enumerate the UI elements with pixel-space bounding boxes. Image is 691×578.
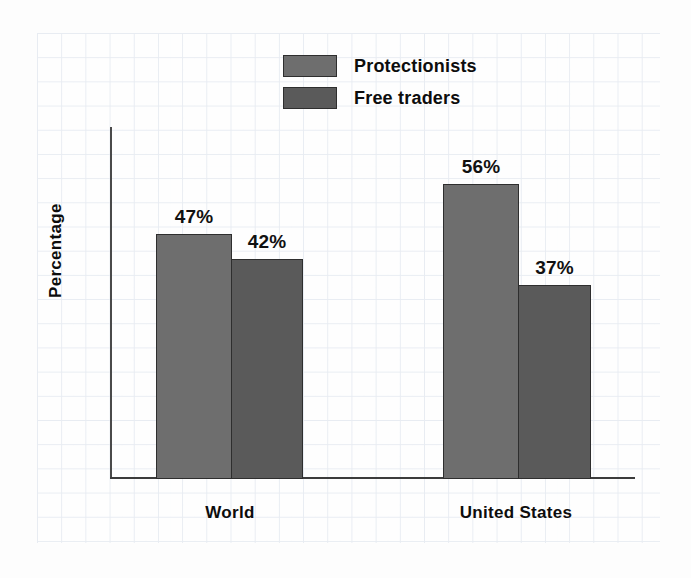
legend-swatch-free-traders [283, 87, 337, 109]
bar-label-united-states-protectionists: 56% [443, 156, 519, 178]
bar-united-states-protectionists [443, 184, 519, 479]
category-label-united-states: United States [441, 503, 591, 523]
plot-area: Percentage 47% 42% World 56% 37% United … [0, 0, 691, 578]
bar-label-world-free-traders: 42% [231, 231, 303, 253]
bar-chart: Percentage 47% 42% World 56% 37% United … [0, 0, 691, 578]
legend-label-free-traders: Free traders [354, 88, 460, 109]
legend-swatch-protectionists [283, 55, 337, 77]
legend-item-protectionists: Protectionists [283, 52, 477, 80]
bar-label-united-states-free-traders: 37% [518, 257, 591, 279]
legend-label-protectionists: Protectionists [354, 56, 477, 77]
bar-united-states-free-traders [518, 285, 591, 479]
y-axis-title: Percentage [46, 203, 66, 298]
bar-label-world-protectionists: 47% [156, 206, 232, 228]
y-axis-line [110, 127, 112, 479]
bar-world-free-traders [231, 259, 303, 479]
bar-world-protectionists [156, 234, 232, 479]
legend-item-free-traders: Free traders [283, 84, 477, 112]
category-label-world: World [170, 503, 290, 523]
chart-legend: Protectionists Free traders [283, 52, 477, 116]
